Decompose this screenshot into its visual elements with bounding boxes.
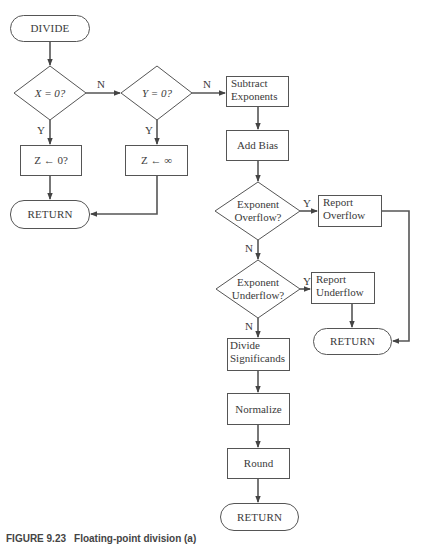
- decision-exponent-overflow: Exponent Overflow?: [222, 197, 294, 225]
- process-report-underflow-line2: Underflow: [316, 286, 364, 299]
- edge-z-inf-to-return: [91, 176, 157, 214]
- process-report-overflow-line2: Overflow: [323, 209, 365, 222]
- decision-check-y-label: Y = 0?: [142, 87, 172, 100]
- decision-overflow-line1: Exponent: [237, 198, 279, 211]
- terminal-return-left-label: RETURN: [27, 208, 72, 221]
- process-subtract-line1: Subtract: [231, 77, 268, 90]
- terminal-return-right: RETURN: [313, 328, 392, 355]
- decision-underflow-line1: Exponent: [237, 276, 279, 289]
- process-report-overflow-line1: Report: [323, 196, 353, 209]
- process-divide-significands: Divide Significands: [227, 338, 290, 371]
- terminal-return-left: RETURN: [10, 200, 90, 229]
- process-report-underflow-line1: Report: [316, 273, 346, 286]
- edge-report-overflow-to-return: [382, 211, 409, 341]
- edge-label-check-x-no: N: [97, 78, 105, 90]
- edge-label-check-x-yes: Y: [37, 124, 45, 136]
- process-z-infinity: Z ← ∞: [125, 145, 188, 176]
- process-round: Round: [227, 448, 290, 479]
- decision-underflow-line2: Underflow?: [232, 289, 285, 302]
- edge-label-overflow-yes: Y: [303, 197, 311, 209]
- terminal-divide: DIVIDE: [10, 15, 90, 42]
- process-z-infinity-label: Z ← ∞: [141, 154, 172, 167]
- edge-label-check-y-yes: Y: [145, 124, 153, 136]
- figure-caption-title: Floating-point division (a): [74, 533, 196, 544]
- process-normalize: Normalize: [227, 393, 290, 425]
- process-report-overflow: Report Overflow: [318, 195, 382, 227]
- process-add-bias-label: Add Bias: [237, 139, 278, 152]
- process-normalize-label: Normalize: [235, 403, 281, 416]
- terminal-return-bottom-label: RETURN: [237, 511, 282, 524]
- edge-label-check-y-no: N: [203, 78, 211, 90]
- decision-check-x-label: X = 0?: [35, 87, 66, 100]
- process-subtract-line2: Exponents: [231, 90, 277, 103]
- edge-label-underflow-yes: Y: [303, 275, 311, 287]
- process-report-underflow: Report Underflow: [311, 272, 375, 304]
- edge-label-overflow-no: N: [245, 242, 253, 254]
- figure-caption-label: FIGURE 9.23: [6, 533, 66, 544]
- decision-check-y: Y = 0?: [127, 86, 187, 100]
- decision-check-x: X = 0?: [20, 86, 80, 100]
- process-subtract-exponents: Subtract Exponents: [226, 76, 289, 107]
- decision-exponent-underflow: Exponent Underflow?: [222, 275, 294, 303]
- terminal-return-bottom: RETURN: [220, 503, 299, 531]
- figure-caption: FIGURE 9.23Floating-point division (a): [6, 533, 196, 544]
- terminal-divide-label: DIVIDE: [30, 22, 69, 35]
- process-round-label: Round: [244, 457, 273, 470]
- edge-label-underflow-no: N: [245, 320, 253, 332]
- process-z-zero: Z ← 0?: [20, 145, 82, 176]
- process-divide-line1: Divide: [230, 339, 260, 352]
- process-add-bias: Add Bias: [226, 130, 289, 161]
- process-divide-line2: Significands: [230, 352, 285, 365]
- process-z-zero-label: Z ← 0?: [34, 154, 68, 167]
- decision-overflow-line2: Overflow?: [234, 211, 281, 224]
- terminal-return-right-label: RETURN: [330, 335, 375, 348]
